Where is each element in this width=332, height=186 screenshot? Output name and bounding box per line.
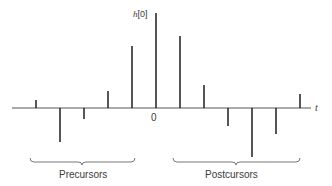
postcursors-brace bbox=[173, 158, 300, 165]
precursors-label: Precursors bbox=[59, 170, 107, 180]
time-axis-label: t bbox=[315, 103, 318, 113]
impulse-response-diagram bbox=[0, 0, 332, 186]
postcursors-label: Postcursors bbox=[205, 170, 258, 180]
peak-label-index: [0] bbox=[138, 9, 148, 19]
stems bbox=[36, 13, 300, 157]
origin-label: 0 bbox=[151, 113, 157, 123]
precursors-brace bbox=[30, 158, 135, 165]
peak-label-h0: h[0] bbox=[133, 10, 148, 19]
